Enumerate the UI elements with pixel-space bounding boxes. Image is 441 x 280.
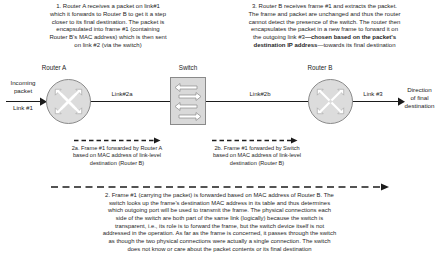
step3-line-1: 3. Router B receives frame #1 and extrac… xyxy=(212,3,437,11)
dashed-arrow-2a-head xyxy=(154,137,161,143)
step2b-line-2: based on MAC address of link-level xyxy=(176,152,338,159)
dashed-arrow-2b-head xyxy=(291,137,298,143)
step3-line6-bold: destination IP address xyxy=(254,42,318,48)
step1-line-4: encapsulated into frame #1 (containing xyxy=(8,26,208,34)
router-a-label: Router A xyxy=(22,64,86,71)
step2a-annotation: 2a. Frame #1 forwarded by Router A based… xyxy=(36,145,198,167)
step3-line6-suffix: —towards its final destination xyxy=(317,42,395,48)
incoming-packet-label: Incoming packet xyxy=(0,79,46,95)
step3-line-6: destination IP address—towards its final… xyxy=(212,42,437,50)
step2b-annotation: 2b. Frame #1 forwarded by Switch based o… xyxy=(176,145,338,167)
step2-line-6: addressed in the operation. As far as th… xyxy=(47,230,392,238)
outgoing-line-1: Direction xyxy=(398,86,441,94)
outgoing-line-3: destination xyxy=(398,102,441,110)
step3-annotation: 3. Router B receives frame #1 and extrac… xyxy=(212,3,437,50)
step3-line5-prefix: the outgoing link #3 xyxy=(253,34,305,40)
wire-link1 xyxy=(6,101,40,102)
step1-line-2: which it forwards to Router B to get it … xyxy=(8,11,208,19)
final-destination-label: Direction of final destination xyxy=(398,86,441,111)
step2a-line-2: based on MAC address of link-level xyxy=(36,152,198,159)
link3-label: Link #3 xyxy=(352,91,394,97)
link2a-label: Link#2a xyxy=(98,91,146,97)
step2-line-1: 2. Frame #1 (carrying the packet) is for… xyxy=(47,192,392,200)
incoming-line-2: packet xyxy=(0,87,46,95)
step2-line-4: side of the switch are both part of the … xyxy=(47,215,392,223)
step2b-line-3: destination (Router B) xyxy=(176,160,338,167)
step2b-line-1: 2b. Frame #1 forwarded by Switch xyxy=(176,145,338,152)
step3-line-5: the outgoing link #3—chosen based on the… xyxy=(212,34,437,42)
dashed-arrow-step2-head xyxy=(381,184,389,191)
step2a-line-3: destination (Router B) xyxy=(36,160,198,167)
step1-annotation: 1. Router A receives a packet on link#1 … xyxy=(8,3,208,50)
step3-line-3: cannot detect the presence of the switch… xyxy=(212,19,437,27)
wire-link2b xyxy=(205,101,320,102)
step1-line-5: Router B's MAC address) which is then se… xyxy=(8,34,208,42)
switch-icon[interactable] xyxy=(170,77,206,125)
step3-line-2: The frame and packet are unchanged and t… xyxy=(212,11,437,19)
link2b-label: Link#2b xyxy=(236,91,284,97)
step1-line-3: closer to its final destination. The pac… xyxy=(8,19,208,27)
step2-line-5: transparent, i.e., its role is to forwar… xyxy=(47,223,392,231)
wire-link3 xyxy=(352,101,400,102)
link1-line: Link #1 xyxy=(0,104,46,112)
step2-line-8: does not know or care about the packet c… xyxy=(47,246,392,254)
switch-label: Switch xyxy=(156,64,220,71)
step2-line-2: switch looks up the frame's destination … xyxy=(47,200,392,208)
router-b-label: Router B xyxy=(288,64,352,71)
link1-label: Link #1 xyxy=(0,104,46,112)
step2a-line-1: 2a. Frame #1 forwarded by Router A xyxy=(36,145,198,152)
step2-line-3: which outgoing port will be used to tran… xyxy=(47,207,392,215)
step2-line-7: as though the two physical connections w… xyxy=(47,238,392,246)
router-b-icon[interactable] xyxy=(308,79,353,124)
outgoing-line-2: of final xyxy=(398,94,441,102)
router-a-icon[interactable] xyxy=(46,79,91,124)
step3-line5-bold: —chosen based on the packet's xyxy=(305,34,396,40)
incoming-line-1: Incoming xyxy=(0,79,46,87)
step1-line-6: on link #2 (via the switch) xyxy=(8,42,208,50)
step3-line-4: encapsulates the packet in a new frame t… xyxy=(212,26,437,34)
step1-line-1: 1. Router A receives a packet on link#1 xyxy=(8,3,208,11)
step2-annotation: 2. Frame #1 (carrying the packet) is for… xyxy=(47,192,392,253)
